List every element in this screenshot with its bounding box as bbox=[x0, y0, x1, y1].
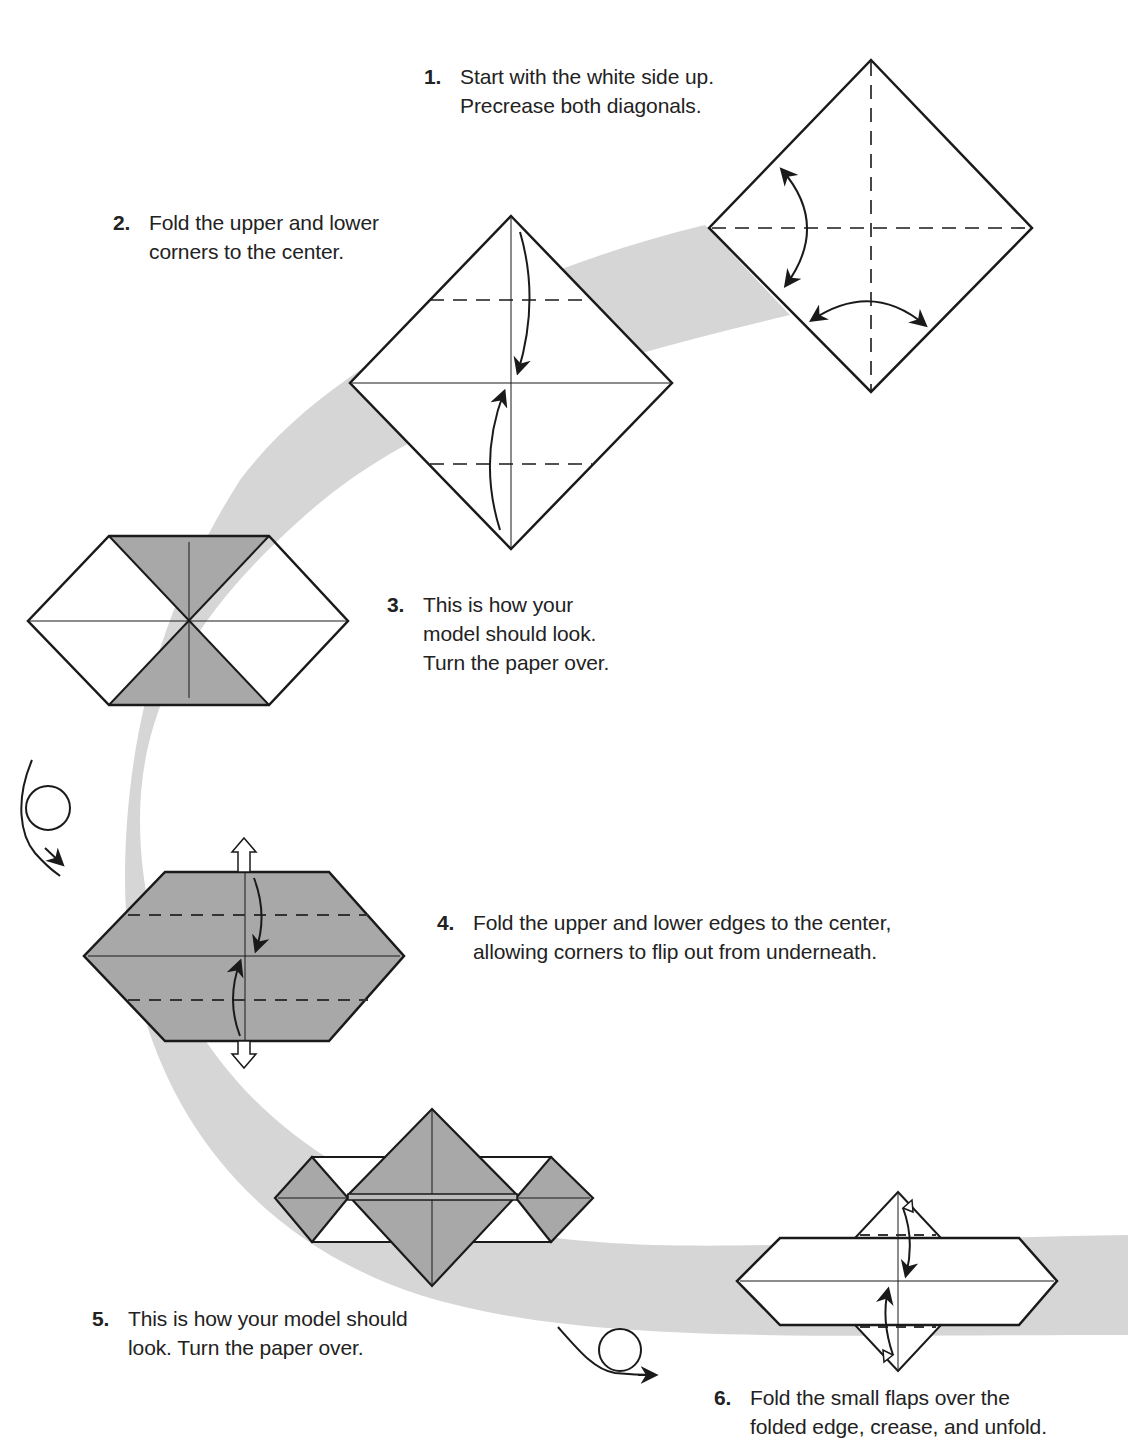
turn-over-arrow-icon bbox=[21, 760, 70, 876]
step-number: 6. bbox=[714, 1383, 731, 1412]
step-text-line: folded edge, crease, and unfold. bbox=[714, 1412, 1047, 1441]
pull-up-arrow-icon bbox=[232, 838, 256, 872]
turn-over-arrow-icon bbox=[558, 1327, 655, 1375]
step-number: 1. bbox=[424, 62, 441, 91]
step-text-line: Fold the small flaps over the bbox=[714, 1383, 1047, 1412]
step-text-line: Turn the paper over. bbox=[387, 648, 609, 677]
step-number: 4. bbox=[437, 908, 454, 937]
step-text-line: corners to the center. bbox=[113, 237, 379, 266]
step-text-line: This is how your model should bbox=[92, 1304, 408, 1333]
step-text-line: Fold the upper and lower edges to the ce… bbox=[437, 908, 891, 937]
step-text-line: look. Turn the paper over. bbox=[92, 1333, 408, 1362]
step6-diagram bbox=[737, 1192, 1057, 1371]
step-4-instruction: 4. Fold the upper and lower edges to the… bbox=[437, 908, 891, 966]
step-number: 2. bbox=[113, 208, 130, 237]
step-text-line: model should look. bbox=[387, 619, 609, 648]
step-number: 5. bbox=[92, 1304, 109, 1333]
step-text-line: Start with the white side up. bbox=[424, 62, 714, 91]
step-number: 3. bbox=[387, 590, 404, 619]
step-text-line: Fold the upper and lower bbox=[113, 208, 379, 237]
step-6-instruction: 6. Fold the small flaps over the folded … bbox=[714, 1383, 1047, 1441]
origami-instructions-page: 1. Start with the white side up. Precrea… bbox=[0, 0, 1128, 1443]
step3-diagram bbox=[28, 536, 348, 705]
pull-down-arrow-icon bbox=[232, 1041, 256, 1068]
step-5-instruction: 5. This is how your model should look. T… bbox=[92, 1304, 408, 1362]
step-2-instruction: 2. Fold the upper and lower corners to t… bbox=[113, 208, 379, 266]
step-text-line: This is how your bbox=[387, 590, 609, 619]
step1-diagram bbox=[709, 60, 1032, 392]
step-text-line: Precrease both diagonals. bbox=[424, 91, 714, 120]
step-text-line: allowing corners to flip out from undern… bbox=[437, 937, 891, 966]
step-1-instruction: 1. Start with the white side up. Precrea… bbox=[424, 62, 714, 120]
step-3-instruction: 3. This is how your model should look. T… bbox=[387, 590, 609, 677]
